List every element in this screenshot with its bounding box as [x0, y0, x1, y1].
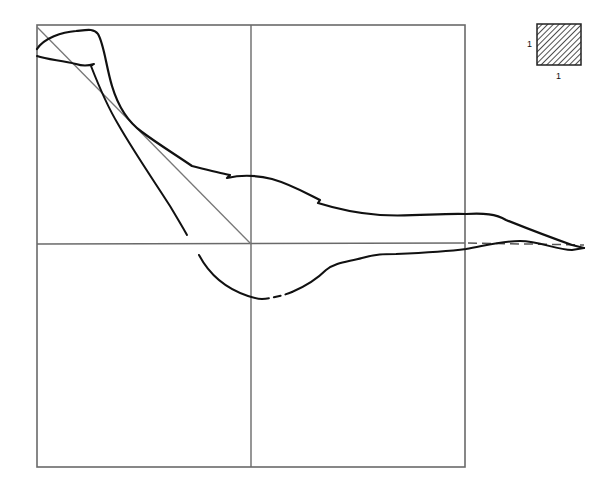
diagonal-reference-line [37, 27, 251, 244]
scale-key-square [537, 24, 581, 65]
upper-trajectory-curve [37, 30, 584, 248]
scale-key-bottom-label: 1 [556, 71, 561, 81]
scale-key-side-label: 1 [527, 39, 532, 49]
lower-trajectory-return [292, 241, 584, 292]
phase-plane-diagram: 1 1 [0, 0, 614, 486]
lower-trajectory-curve [199, 255, 262, 299]
lower-trajectory-dashed-gap [262, 292, 292, 299]
scale-key: 1 1 [527, 24, 581, 81]
